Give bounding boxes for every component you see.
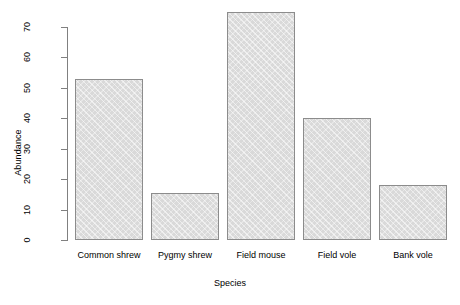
bar-texture (304, 119, 370, 239)
x-axis-tick-label: Field mouse (217, 248, 305, 262)
bar-texture (228, 13, 294, 239)
x-axis-title: Species (0, 278, 460, 288)
x-axis-tick-label: Pygmy shrew (141, 248, 229, 262)
bar-chart: Abundance 010203040506070 Common shrewPy… (0, 0, 460, 305)
bar-texture (76, 80, 142, 239)
bar (303, 118, 371, 240)
bar (151, 193, 219, 240)
bar (379, 185, 447, 240)
bar (227, 12, 295, 240)
x-axis-tick-label: Bank vole (369, 248, 457, 262)
x-axis-tick-label: Common shrew (65, 248, 153, 262)
bar (75, 79, 143, 240)
bar-texture (152, 194, 218, 239)
bar-texture (380, 186, 446, 239)
x-axis-title-text: Species (214, 278, 246, 288)
x-axis-tick-label: Field vole (293, 248, 381, 262)
